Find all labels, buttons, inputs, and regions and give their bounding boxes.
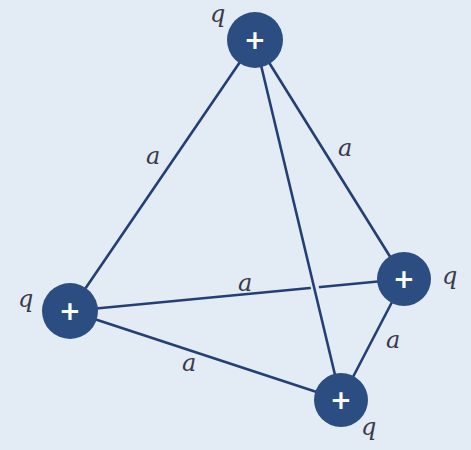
charge-bottom: + — [314, 373, 368, 427]
edge-top-left — [70, 40, 255, 311]
tetrahedron-charge-diagram: a a a a a + q + q + q + q — [0, 0, 471, 450]
edge-label-right-bottom: a — [386, 326, 400, 354]
edge-top-right — [255, 40, 404, 279]
plus-sign-icon: + — [393, 264, 415, 294]
charge-top: + — [227, 12, 283, 68]
charge-label-bottom: q — [361, 413, 376, 441]
edge-label-left-right: a — [238, 269, 252, 297]
edge-left-bottom — [70, 311, 341, 400]
edge-label-top-left: a — [146, 142, 160, 170]
charge-left: + — [42, 283, 98, 339]
edge-label-top-right: a — [338, 134, 352, 162]
charge-label-top: q — [210, 0, 225, 28]
plus-sign-icon: + — [244, 25, 266, 55]
charge-label-left: q — [18, 285, 33, 313]
charge-label-right: q — [442, 262, 457, 290]
edge-top-bottom — [255, 40, 341, 400]
edge-left-right — [70, 279, 404, 311]
plus-sign-icon: + — [59, 296, 81, 326]
plus-sign-icon: + — [330, 385, 352, 415]
charge-right: + — [377, 252, 431, 306]
edge-label-left-bottom: a — [182, 349, 196, 377]
